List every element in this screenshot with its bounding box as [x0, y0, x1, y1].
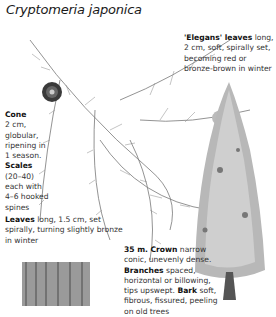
height-label: 35 m. [124, 245, 148, 254]
cone-annotation: Cone 2 cm, globular, ripening in 1 seaso… [5, 110, 50, 213]
bark-detail [22, 262, 90, 306]
crown-label: Crown [150, 245, 177, 254]
cone-label: Cone [5, 110, 26, 119]
bark-label: Bark [177, 286, 197, 295]
species-title: Cryptomeria japonica [6, 2, 142, 17]
tree-annotation: 35 m. Crown narrow conic, unevenly dense… [124, 245, 224, 317]
cone-text: 2 cm, globular, ripening in 1 season. [5, 120, 46, 160]
leaves-annotation: Leaves long, 1.5 cm, set spirally, turni… [5, 215, 125, 246]
elegans-annotation: 'Elegans' leaves long, 2 cm, soft, spira… [184, 33, 276, 74]
branches-label: Branches [124, 266, 164, 275]
scales-text: (20–40) each with 4–6 hooked spines [5, 172, 49, 212]
leaves-label: Leaves [5, 215, 35, 224]
cone [42, 82, 62, 102]
elegans-label: 'Elegans' leaves [184, 33, 252, 42]
scales-label: Scales [5, 161, 32, 170]
